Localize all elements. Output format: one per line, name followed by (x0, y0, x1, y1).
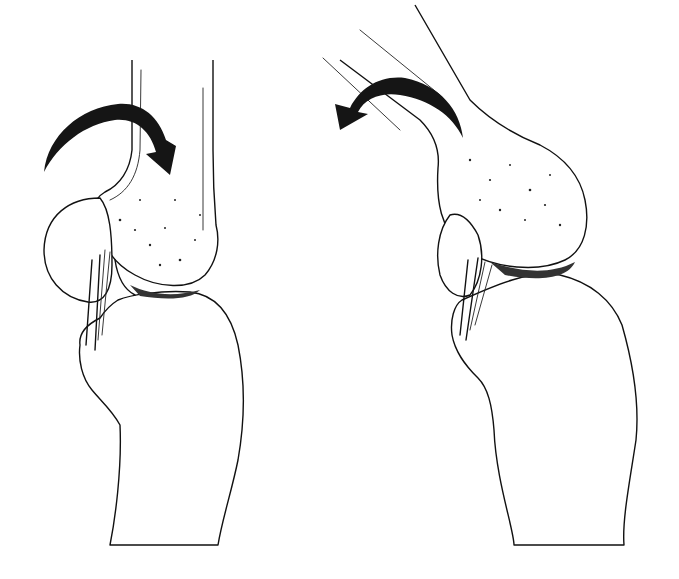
left-knee-figure (44, 60, 243, 545)
illustration-canvas: Knee with femur vertical Knee with femur… (0, 0, 679, 579)
knee-joint-illustration (0, 0, 679, 579)
right-knee-figure (323, 5, 637, 545)
left-tibia (80, 292, 244, 545)
right-tibia (451, 274, 637, 545)
